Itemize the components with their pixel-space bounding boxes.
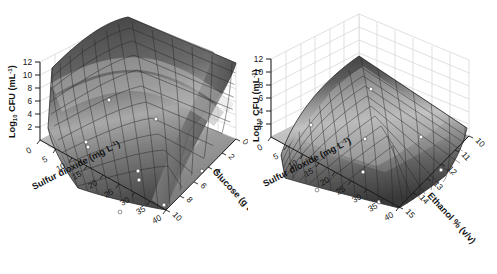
y-tick-label: 6 (27, 96, 32, 106)
data-point (154, 117, 158, 121)
data-point (361, 170, 365, 174)
y-axis: 12 10 8 6 4 2 Log10 CFU (mL-1) (7, 57, 40, 140)
figure-root: 12 10 8 6 4 2 Log10 CFU (mL-1) (0, 0, 497, 274)
y-axis: 12 10 8 6 4 2 Log10 CFU (mL-1) (251, 54, 271, 142)
y-tick-label: 10 (23, 70, 33, 80)
data-point (107, 98, 111, 102)
data-point (369, 87, 373, 91)
data-point (363, 137, 367, 141)
z-tick-label: 2 (227, 152, 238, 162)
surface-plot-ethanol: 12 10 8 6 4 2 Log10 CFU (mL-1) (249, 0, 497, 274)
y-tick-label: 8 (27, 83, 32, 93)
x-tick-label: 5 (271, 151, 280, 162)
z-tick-label: 10 (474, 136, 488, 150)
x-tick-label: 5 (40, 154, 49, 165)
z-tick-label: 0 (241, 137, 248, 147)
data-point (309, 123, 313, 127)
data-point (118, 210, 122, 214)
y-axis-title: Log10 CFU (mL-1) (7, 65, 18, 138)
x-tick-label: 0 (255, 142, 264, 153)
data-point (162, 203, 166, 207)
y-axis-title: Log10 CFU (mL-1) (251, 69, 262, 142)
left-plot-svg: 12 10 8 6 4 2 Log10 CFU (mL-1) (0, 0, 248, 274)
y-tick-label: 2 (27, 122, 32, 132)
data-point (137, 178, 141, 182)
z-axis-title: Glucose (g L-1) (211, 167, 248, 221)
z-axis-title: Ethanol % (v/v) (426, 191, 478, 246)
y-tick-label: 4 (27, 109, 32, 119)
y-tick-label: 12 (254, 54, 264, 64)
data-point (136, 169, 140, 173)
z-tick-label: 15 (404, 207, 418, 221)
x-tick-label: 40 (382, 209, 395, 222)
z-tick-label: 8 (185, 195, 196, 205)
data-point (419, 135, 423, 139)
right-plot-svg: 12 10 8 6 4 2 Log10 CFU (mL-1) (249, 0, 497, 274)
response-surface (48, 17, 240, 210)
surface-plot-glucose: 12 10 8 6 4 2 Log10 CFU (mL-1) (0, 0, 248, 274)
data-point (86, 145, 90, 149)
data-point (439, 168, 443, 172)
x-tick-label: 40 (150, 212, 163, 225)
data-point (84, 140, 88, 144)
x-tick-label: 0 (24, 145, 33, 156)
z-tick-label: 10 (171, 210, 185, 224)
z-tick-label: 6 (199, 181, 210, 191)
z-tick-label: 11 (460, 150, 473, 163)
y-tick-label: 12 (23, 57, 33, 67)
data-point (315, 188, 319, 192)
